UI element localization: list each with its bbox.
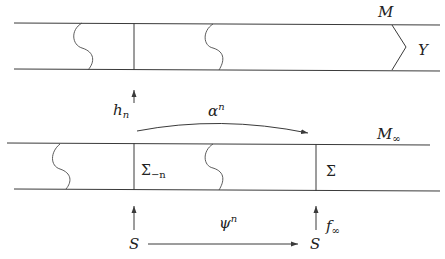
top-strip-right-wave [205,24,223,70]
commutative-diagram: M Y hn αn M∞ Σ−n Σ ψn f∞ S S [0,0,445,259]
top-strip-left-wave [74,23,93,70]
bottom-strip-left-wave [53,144,70,189]
label-s-left: S [129,237,139,252]
label-y: Y [418,43,428,58]
top-strip [14,23,440,71]
bottom-strip-upper-edge [7,143,430,145]
label-alpha-n: αn [208,104,225,119]
bottom-strip [7,143,440,191]
top-strip-lower-edge [14,69,440,71]
label-sigma-minus-n: Σ−n [141,163,166,177]
bottom-strip-right-wave [205,144,223,190]
bottom-strip-lower-edge [14,189,440,191]
label-s-right: S [310,237,320,252]
label-h-n: hn [113,103,129,118]
top-strip-upper-edge [14,23,440,25]
top-strip-end-chevron [392,25,406,70]
label-m-infinity: M∞ [377,127,401,142]
label-f-infinity: f∞ [326,219,340,234]
arrow-alpha-n [137,123,308,133]
label-m: M [378,5,393,20]
label-psi-n: ψn [219,216,237,231]
label-sigma: Σ [326,164,336,178]
